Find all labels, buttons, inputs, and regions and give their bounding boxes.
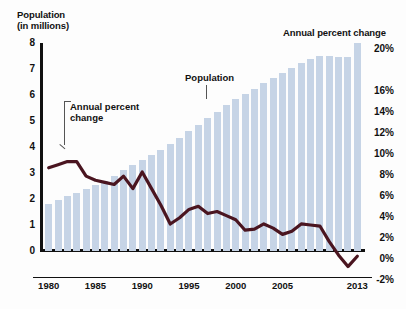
x-axis-tick: 2000 — [219, 281, 253, 291]
y-axis-tick: 4 — [19, 142, 35, 152]
x-axis-tick: 2005 — [266, 281, 300, 291]
y2-axis-tick: 14% — [368, 107, 394, 117]
x-axis-tick: 1985 — [78, 281, 112, 291]
y-axis-tick: 5 — [19, 116, 35, 126]
annual-percent-change-polyline — [49, 162, 358, 267]
x-axis-tick: 1995 — [172, 281, 206, 291]
y-axis-tick: 2 — [19, 194, 35, 204]
annotation-apc-line1: Annual percent — [70, 101, 139, 112]
left-axis-title: Population (in millions) — [17, 9, 69, 31]
annotation-apc-line2: change — [70, 112, 139, 123]
y2-axis-tick: 16% — [368, 86, 394, 96]
y2-axis-tick: 0% — [368, 254, 394, 264]
left-axis-title-line2: (in millions) — [17, 20, 69, 31]
x-axis-label-rule — [33, 277, 372, 278]
y-axis-tick: 7 — [19, 64, 35, 74]
y2-axis-tick: 4% — [368, 212, 394, 222]
annotation-population: Population — [185, 72, 234, 83]
x-axis-tick: 2013 — [340, 281, 374, 291]
x-axis-tick: 1990 — [125, 281, 159, 291]
left-axis-title-line1: Population — [17, 9, 69, 20]
y2-axis-tick: 6% — [368, 191, 394, 201]
y-axis-tick: 8 — [19, 38, 35, 48]
y-axis-tick: 3 — [19, 168, 35, 178]
y2-axis-tick: 20% — [368, 44, 394, 54]
annotation-annual-percent-change: Annual percent change — [70, 101, 139, 123]
y-axis-tick: 1 — [19, 220, 35, 230]
right-axis-title: Annual percent change — [283, 27, 386, 38]
y2-axis-tick: 8% — [368, 170, 394, 180]
y2-axis-tick: 10% — [368, 149, 394, 159]
y-axis-line — [40, 43, 43, 252]
annotation-apc-leader-vertical — [64, 101, 65, 145]
chart-figure: Population (in millions) Annual percent … — [0, 0, 406, 309]
y-axis-tick: 0 — [19, 246, 35, 256]
y-axis-tick: 6 — [19, 90, 35, 100]
y2-axis-tick: 12% — [368, 128, 394, 138]
x-axis-tick: 1980 — [32, 281, 66, 291]
y2-axis-tick: 2% — [368, 233, 394, 243]
annotation-population-leader — [206, 85, 207, 99]
